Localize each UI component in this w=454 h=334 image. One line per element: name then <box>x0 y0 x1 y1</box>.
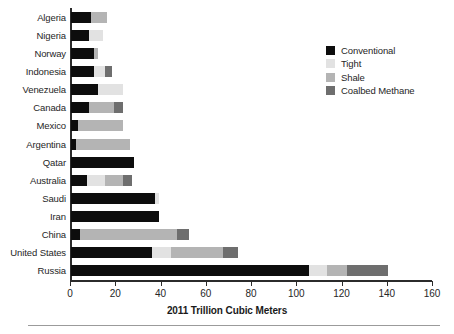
x-axis-tick-label: 140 <box>367 288 407 299</box>
bar-segment-shale <box>89 102 114 113</box>
x-axis-tick <box>387 281 388 286</box>
stacked-bar <box>71 30 103 41</box>
x-axis-tick-label: 80 <box>231 288 271 299</box>
legend-label: Conventional <box>341 45 395 56</box>
bar-row: United States <box>0 244 454 261</box>
stacked-bar <box>71 229 189 240</box>
legend-swatch-tight <box>326 59 335 68</box>
bar-segment-conventional <box>71 48 94 59</box>
x-axis-tick-label: 60 <box>186 288 226 299</box>
bar-segment-shale <box>94 48 99 59</box>
y-axis-label-canada: Canada <box>0 99 66 116</box>
bar-segment-conventional <box>71 211 159 222</box>
stacked-bar <box>71 157 134 168</box>
chart-legend: ConventionalTightShaleCoalbed Methane <box>326 44 415 98</box>
bar-segment-tight <box>155 193 160 204</box>
stacked-bar <box>71 84 123 95</box>
bar-segment-conventional <box>71 193 155 204</box>
x-axis-tick-label: 0 <box>50 288 90 299</box>
bar-segment-conventional <box>71 30 89 41</box>
bar-segment-coalbed-methane <box>177 229 188 240</box>
y-axis-label-mexico: Mexico <box>0 117 66 134</box>
bar-row: Australia <box>0 172 454 189</box>
bar-segment-conventional <box>71 157 134 168</box>
bar-segment-conventional <box>71 265 309 276</box>
bar-row: Nigeria <box>0 27 454 44</box>
bar-row: Qatar <box>0 154 454 171</box>
bar-segment-tight <box>94 66 105 77</box>
legend-swatch-coalbed <box>326 86 335 95</box>
bar-segment-coalbed-methane <box>223 247 239 258</box>
y-axis-label-saudi: Saudi <box>0 190 66 207</box>
legend-label: Tight <box>341 58 361 69</box>
x-axis-tick <box>342 281 343 286</box>
y-axis-label-indonesia: Indonesia <box>0 63 66 80</box>
stacked-bar <box>71 120 123 131</box>
y-axis-label-venezuela: Venezuela <box>0 81 66 98</box>
bar-segment-conventional <box>71 247 152 258</box>
y-axis-label-australia: Australia <box>0 172 66 189</box>
y-axis-label-united-states: United States <box>0 244 66 261</box>
bar-segment-tight <box>89 30 103 41</box>
bar-segment-conventional <box>71 120 78 131</box>
x-axis-tick <box>296 281 297 286</box>
bar-row: China <box>0 226 454 243</box>
legend-swatch-shale <box>326 73 335 82</box>
bar-segment-conventional <box>71 84 98 95</box>
bar-segment-conventional <box>71 175 87 186</box>
y-axis-label-algeria: Algeria <box>0 9 66 26</box>
stacked-bar <box>71 175 132 186</box>
footer-divider <box>28 325 440 326</box>
legend-label: Coalbed Methane <box>341 85 415 96</box>
stacked-bar <box>71 66 112 77</box>
bar-segment-shale <box>327 265 347 276</box>
bar-row: Algeria <box>0 9 454 26</box>
bar-segment-coalbed-methane <box>114 102 123 113</box>
stacked-bar <box>71 12 107 23</box>
x-axis-tick-label: 40 <box>141 288 181 299</box>
stacked-bar <box>71 139 130 150</box>
y-axis-label-norway: Norway <box>0 45 66 62</box>
stacked-bar-chart: AlgeriaNigeriaNorwayIndonesiaVenezuelaCa… <box>0 0 454 334</box>
x-axis-tick-label: 160 <box>412 288 452 299</box>
legend-item: Coalbed Methane <box>326 85 415 97</box>
bar-segment-coalbed-methane <box>347 265 388 276</box>
bar-segment-tight <box>152 247 170 258</box>
x-axis-tick <box>251 281 252 286</box>
bar-segment-coalbed-methane <box>123 175 132 186</box>
x-axis-tick-label: 120 <box>322 288 362 299</box>
bar-segment-tight <box>309 265 327 276</box>
bar-segment-conventional <box>71 12 91 23</box>
bar-segment-conventional <box>71 102 89 113</box>
y-axis-label-qatar: Qatar <box>0 154 66 171</box>
stacked-bar <box>71 247 238 258</box>
bar-segment-shale <box>171 247 223 258</box>
bar-segment-tight <box>98 84 123 95</box>
y-axis-label-russia: Russia <box>0 262 66 279</box>
bar-segment-conventional <box>71 66 94 77</box>
bar-segment-tight <box>87 175 105 186</box>
x-axis-tick-label: 20 <box>95 288 135 299</box>
bar-row: Iran <box>0 208 454 225</box>
bar-row: Saudi <box>0 190 454 207</box>
y-axis-label-argentina: Argentina <box>0 136 66 153</box>
bar-row: Canada <box>0 99 454 116</box>
legend-swatch-conventional <box>326 46 335 55</box>
x-axis-tick <box>432 281 433 286</box>
stacked-bar <box>71 193 159 204</box>
bar-segment-shale <box>91 12 107 23</box>
stacked-bar <box>71 102 123 113</box>
bar-row: Russia <box>0 262 454 279</box>
legend-item: Tight <box>326 58 415 70</box>
x-axis-tick-label: 100 <box>276 288 316 299</box>
bar-segment-shale <box>105 175 123 186</box>
legend-label: Shale <box>341 72 365 83</box>
y-axis-label-nigeria: Nigeria <box>0 27 66 44</box>
bar-segment-shale <box>76 139 130 150</box>
x-axis-tick <box>115 281 116 286</box>
bar-segment-shale <box>78 120 123 131</box>
bar-segment-conventional <box>71 229 80 240</box>
x-axis-title: 2011 Trillion Cubic Meters <box>0 305 454 316</box>
x-axis-tick <box>206 281 207 286</box>
bar-row: Mexico <box>0 117 454 134</box>
